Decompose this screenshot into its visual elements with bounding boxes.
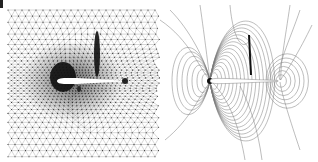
contour-panel xyxy=(158,0,318,162)
contour-plot xyxy=(158,0,318,162)
airfoil-outline xyxy=(210,78,278,83)
lower-spot xyxy=(77,86,81,92)
triangular-mesh-plot xyxy=(0,0,160,162)
mesh-panel xyxy=(0,0,160,162)
shock-line xyxy=(249,35,251,75)
trailing-edge-dot xyxy=(122,78,128,84)
shock-streak xyxy=(94,31,100,77)
leading-edge-cluster xyxy=(50,62,76,92)
